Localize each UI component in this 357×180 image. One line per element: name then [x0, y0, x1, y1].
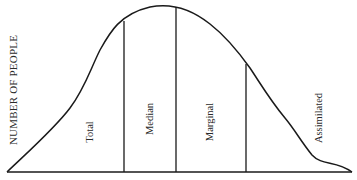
segment-label-marginal: Marginal	[204, 103, 215, 141]
segment-label-assimilated: Assimilated	[313, 92, 324, 143]
segment-label-total: Total	[84, 121, 95, 143]
y-axis-label: NUMBER OF PEOPLE	[7, 35, 19, 145]
bell-curve-diagram: NUMBER OF PEOPLE Total Median Marginal A…	[0, 0, 357, 180]
distribution-curve	[7, 6, 352, 172]
segment-label-median: Median	[144, 102, 155, 135]
